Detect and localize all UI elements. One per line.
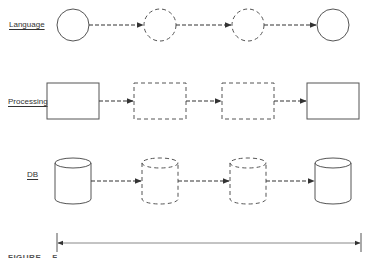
- node-dashed-box: [222, 83, 274, 119]
- node-solid-cylinder: [55, 158, 91, 204]
- row-language: [57, 9, 349, 41]
- node-dashed-cylinder: [230, 158, 266, 204]
- node-solid-box: [47, 83, 99, 119]
- evolution-diagram: [0, 0, 368, 261]
- node-dashed-box: [134, 83, 186, 119]
- node-solid-circle: [317, 9, 349, 41]
- node-dashed-circle: [232, 9, 264, 41]
- node-solid-cylinder: [315, 158, 351, 204]
- node-solid-circle: [57, 9, 89, 41]
- node-solid-box: [307, 83, 359, 119]
- node-dashed-circle: [144, 9, 176, 41]
- row-processing: [47, 83, 359, 119]
- node-dashed-cylinder: [142, 158, 178, 204]
- row-db: [55, 158, 351, 204]
